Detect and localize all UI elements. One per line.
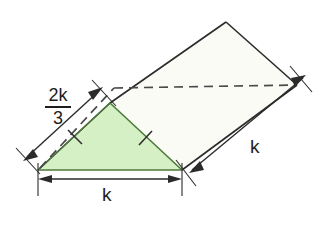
fraction-numerator: 2k xyxy=(38,86,78,105)
fraction-denominator: 3 xyxy=(38,109,78,128)
bottom-dim-arrowhead-left-icon xyxy=(38,175,52,183)
bottom-dim-arrowhead-right-icon xyxy=(168,175,182,183)
left-dim-arrowhead-lower-icon xyxy=(23,149,38,161)
geometry-figure: k k 2k 3 xyxy=(0,0,332,226)
dimension-label-k-bottom: k xyxy=(102,185,112,204)
left-dim-extension-lower xyxy=(16,148,40,174)
dimension-label-k-right: k xyxy=(250,137,260,156)
left-dim-arrowhead-upper-icon xyxy=(88,87,103,100)
dimension-label-2k-over-3: 2k 3 xyxy=(38,86,78,128)
